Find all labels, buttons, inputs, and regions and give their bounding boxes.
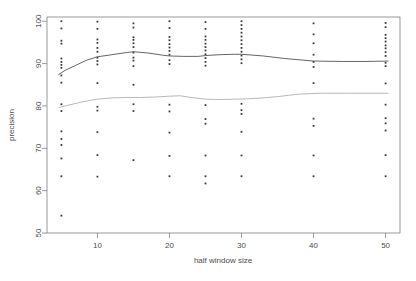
chart-root: 5060708090100 1020304050 half window siz…: [0, 0, 416, 281]
data-point: [385, 130, 387, 132]
data-point: [313, 54, 315, 56]
data-point: [385, 104, 387, 106]
data-point: [133, 60, 135, 62]
x-tick-label: 30: [237, 241, 246, 250]
data-point: [241, 51, 243, 53]
data-point: [61, 20, 63, 22]
data-point: [97, 64, 99, 66]
data-point: [169, 27, 171, 29]
data-point: [241, 32, 243, 34]
data-point: [241, 62, 243, 64]
data-point: [97, 60, 99, 62]
data-point: [313, 82, 315, 84]
data-point: [133, 39, 135, 41]
data-point: [313, 33, 315, 35]
data-point: [205, 118, 207, 120]
data-point: [169, 155, 171, 157]
data-point: [61, 43, 63, 45]
data-point: [205, 155, 207, 157]
y-axis-title: precision: [7, 109, 16, 141]
data-point: [313, 42, 315, 44]
data-point: [205, 65, 207, 67]
data-point: [133, 110, 135, 112]
data-point: [97, 39, 99, 41]
data-point: [97, 154, 99, 156]
data-point: [205, 61, 207, 63]
data-point: [133, 57, 135, 59]
plot-background: [0, 0, 416, 281]
data-point: [169, 50, 171, 52]
data-point: [385, 44, 387, 46]
data-point: [205, 46, 207, 48]
x-tick-label: 20: [165, 241, 174, 250]
data-point: [133, 103, 135, 105]
data-point: [169, 63, 171, 65]
data-point: [385, 154, 387, 156]
data-point: [61, 67, 63, 69]
data-point: [385, 175, 387, 177]
data-point: [133, 36, 135, 38]
y-tick-label: 90: [34, 59, 43, 68]
x-tick-label: 10: [93, 241, 102, 250]
data-point: [241, 109, 243, 111]
data-point: [61, 82, 63, 84]
data-point: [97, 176, 99, 178]
y-tick-label: 60: [34, 186, 43, 195]
data-point: [169, 39, 171, 41]
data-point: [133, 65, 135, 67]
data-point: [169, 59, 171, 61]
data-point: [385, 34, 387, 36]
data-point: [97, 106, 99, 108]
data-point: [385, 62, 387, 64]
data-point: [241, 24, 243, 26]
data-point: [61, 158, 63, 160]
data-point: [61, 103, 63, 105]
data-point: [241, 28, 243, 30]
x-axis-title: half window size: [194, 256, 253, 265]
data-point: [241, 113, 243, 115]
data-point: [241, 175, 243, 177]
data-point: [133, 22, 135, 24]
data-point: [313, 125, 315, 127]
data-point: [241, 103, 243, 105]
data-point: [61, 61, 63, 63]
data-point: [169, 47, 171, 49]
data-point: [61, 40, 63, 42]
data-point: [133, 42, 135, 44]
data-point: [61, 175, 63, 177]
data-point: [205, 183, 207, 185]
data-point: [169, 54, 171, 56]
data-point: [97, 28, 99, 30]
data-point: [205, 50, 207, 52]
data-point: [61, 138, 63, 140]
data-point: [241, 20, 243, 22]
data-point: [61, 144, 63, 146]
data-point: [385, 47, 387, 49]
data-point: [385, 26, 387, 28]
data-point: [97, 82, 99, 84]
data-point: [241, 155, 243, 157]
data-point: [133, 159, 135, 161]
data-point: [205, 104, 207, 106]
data-point: [385, 51, 387, 53]
data-point: [61, 64, 63, 66]
data-point: [385, 117, 387, 119]
data-point: [97, 51, 99, 53]
y-tick-label: 50: [34, 228, 43, 237]
data-point: [169, 111, 171, 113]
data-point: [97, 131, 99, 133]
data-point: [313, 22, 315, 24]
data-point: [61, 75, 63, 77]
data-point: [241, 36, 243, 38]
data-point: [385, 37, 387, 39]
data-point: [205, 39, 207, 41]
data-point: [97, 21, 99, 23]
data-point: [61, 215, 63, 217]
data-point: [241, 131, 243, 133]
data-point: [169, 104, 171, 106]
data-point: [169, 175, 171, 177]
data-point: [313, 155, 315, 157]
data-point: [169, 43, 171, 45]
data-point: [241, 47, 243, 49]
data-point: [61, 130, 63, 132]
